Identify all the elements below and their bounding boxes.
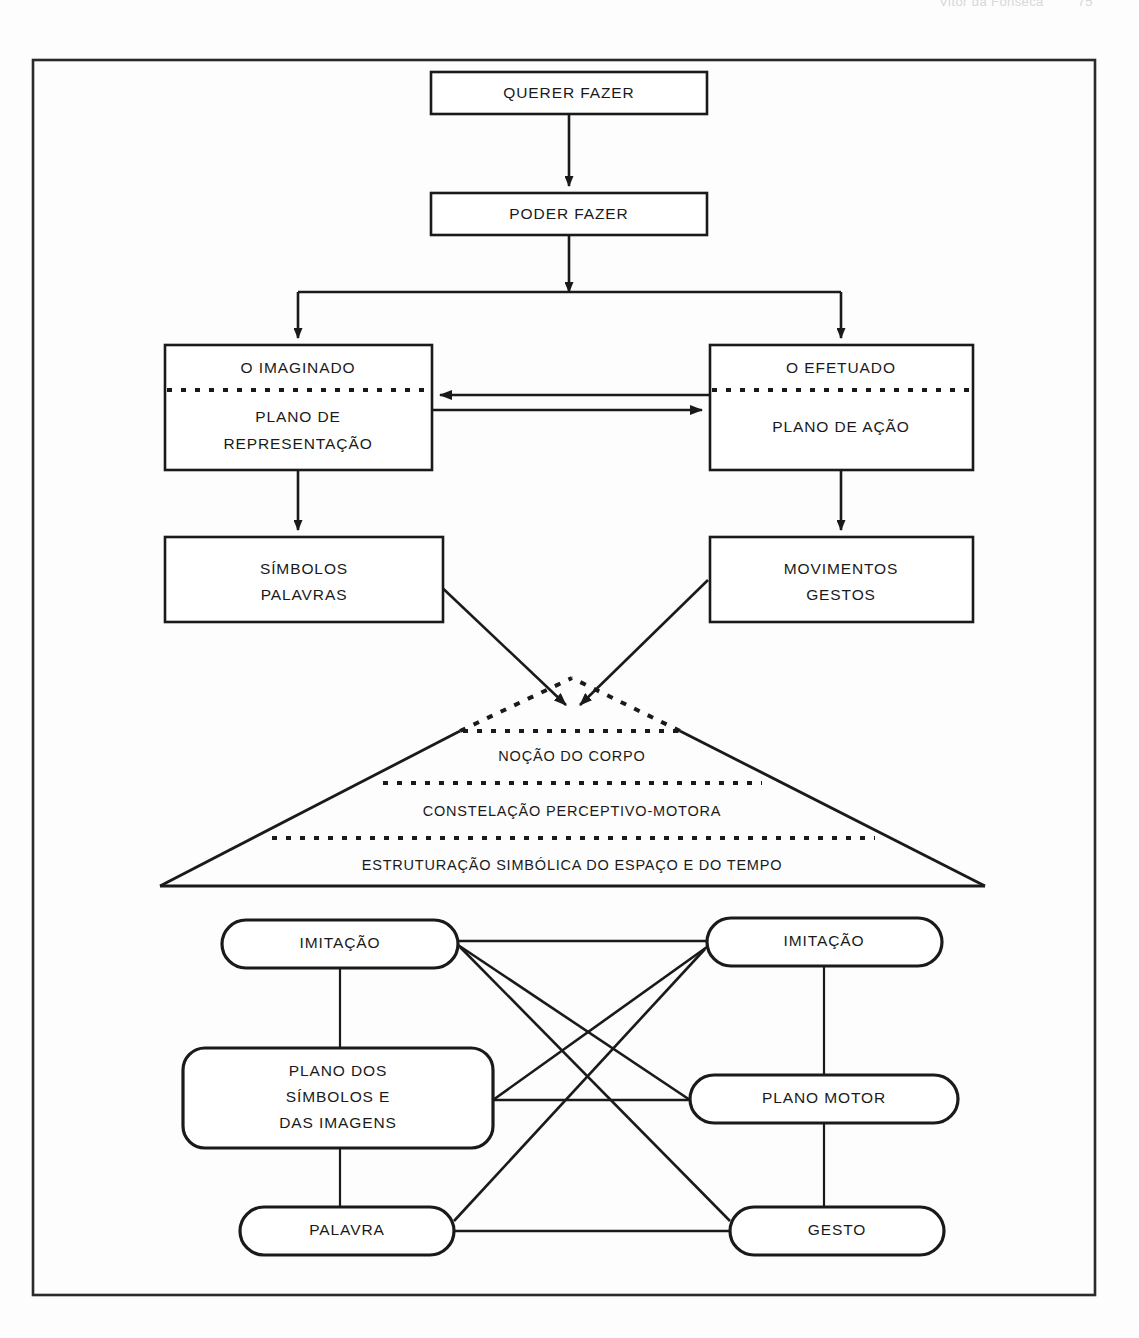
pyramid-apex-left: [460, 678, 572, 731]
node-label: IMITAÇÃO: [784, 932, 865, 949]
connector-imitacao-left-to-gesto: [460, 947, 730, 1221]
node-label: PODER FAZER: [509, 205, 628, 222]
node-label: GESTO: [808, 1221, 866, 1238]
pyramid-layer-label-1: NOÇÃO DO CORPO: [498, 748, 645, 764]
node-plano-motor[interactable]: PLANO MOTOR: [690, 1075, 958, 1123]
node-title: O IMAGINADO: [241, 359, 356, 376]
node-plano-dos-simbolos-e-das-imagens[interactable]: PLANO DOS SÍMBOLOS E DAS IMAGENS: [183, 1048, 493, 1148]
node-label-line2: PALAVRAS: [261, 586, 348, 603]
node-label-line2: GESTOS: [806, 586, 876, 603]
node-label-line1: PLANO DE AÇÃO: [772, 418, 909, 435]
node-label: IMITAÇÃO: [300, 934, 381, 951]
node-imitacao-left[interactable]: IMITAÇÃO: [222, 920, 458, 968]
node-label: QUERER FAZER: [503, 84, 634, 101]
node-label-line1: SÍMBOLOS: [260, 560, 348, 577]
connector-imitacao-right-to-plano-simbolos: [493, 947, 707, 1100]
node-o-efetuado[interactable]: O EFETUADO PLANO DE AÇÃO: [710, 345, 973, 470]
node-box: [710, 537, 973, 622]
node-label-line3: DAS IMAGENS: [279, 1114, 397, 1131]
node-poder-fazer[interactable]: PODER FAZER: [431, 193, 707, 235]
pyramid-diagram[interactable]: NOÇÃO DO CORPO CONSTELAÇÃO PERCEPTIVO-MO…: [160, 678, 985, 886]
node-movimentos-gestos[interactable]: MOVIMENTOS GESTOS: [710, 537, 973, 622]
scanned-page: Vitor da Fonseca75 QUE: [0, 0, 1139, 1338]
node-label-line2: REPRESENTAÇÃO: [223, 435, 372, 452]
node-label-line1: MOVIMENTOS: [784, 560, 899, 577]
pyramid-layer-label-3: ESTRUTURAÇÃO SIMBÓLICA DO ESPAÇO E DO TE…: [362, 857, 783, 873]
node-label-line1: PLANO DOS: [289, 1062, 388, 1079]
node-querer-fazer[interactable]: QUERER FAZER: [431, 72, 707, 114]
node-label-line2: SÍMBOLOS E: [286, 1088, 391, 1105]
pyramid-apex-right: [572, 678, 680, 731]
pyramid-layer-label-2: CONSTELAÇÃO PERCEPTIVO-MOTORA: [423, 803, 721, 819]
connector-movimentos-to-triangle: [580, 580, 708, 705]
connector-simbolos-to-triangle: [434, 580, 566, 705]
node-label: PLANO MOTOR: [762, 1089, 886, 1106]
node-simbolos-palavras[interactable]: SÍMBOLOS PALAVRAS: [165, 537, 443, 622]
node-box: [165, 537, 443, 622]
flowchart-figure: QUERER FAZER PODER FAZER O IMAGINADO PLA…: [0, 0, 1139, 1338]
node-label-line1: PLANO DE: [255, 408, 341, 425]
node-title: O EFETUADO: [786, 359, 896, 376]
node-imitacao-right[interactable]: IMITAÇÃO: [707, 918, 942, 966]
node-o-imaginado[interactable]: O IMAGINADO PLANO DE REPRESENTAÇÃO: [165, 345, 432, 470]
node-gesto[interactable]: GESTO: [730, 1207, 944, 1255]
node-palavra[interactable]: PALAVRA: [240, 1207, 454, 1255]
node-label: PALAVRA: [309, 1221, 385, 1238]
